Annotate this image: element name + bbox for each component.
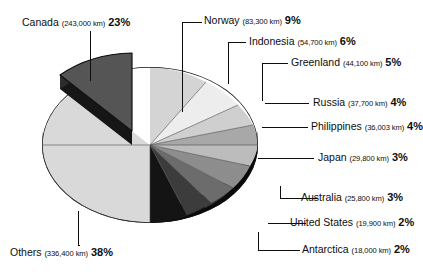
pie-chart [0,0,423,274]
label-philippines-name: Philippines [311,120,362,132]
label-norway-value: (83,300 km) [243,17,282,26]
label-others: Others (336,400 km) 38% [10,247,113,258]
leader-others-v [78,211,79,245]
leader-indonesia-v [228,42,229,84]
leader-japan-h [258,158,314,159]
label-australia-value: (25,800 km) [345,194,384,203]
label-indonesia-value: (54,700 km) [297,38,336,47]
label-indonesia-percent: 6% [340,35,356,47]
label-japan-percent: 3% [392,151,408,163]
label-united-states-percent: 2% [398,216,414,228]
label-japan-name: Japan [318,151,347,163]
label-canada-name: Canada [22,16,59,28]
chart-canvas: World's longest coastlines [0,0,423,274]
leader-indonesia-h [228,42,246,43]
label-philippines: Philippines (36,003 km) 4% [311,121,423,132]
leader-australia-v [280,186,281,198]
label-greenland-name: Greenland [291,56,340,68]
label-antarctica-value: (18,000 km) [352,246,391,255]
label-norway-name: Norway [204,14,240,26]
label-australia-percent: 3% [387,191,403,203]
label-others-percent: 38% [91,246,113,258]
label-antarctica-percent: 2% [394,243,410,255]
label-japan-value: (29,800 km) [350,154,389,163]
label-norway: Norway (83,300 km) 9% [204,15,301,26]
pie-svg [0,0,423,274]
label-indonesia: Indonesia (54,700 km) 6% [249,36,356,47]
label-united-states-name: United States [290,216,353,228]
label-others-name: Others [10,246,42,258]
label-australia-name: Australia [301,191,342,203]
label-russia-value: (37,700 km) [348,99,387,108]
label-russia: Russia (37,700 km) 4% [313,97,406,108]
label-united-states-value: (19,900 km) [356,219,395,228]
slice-others [42,145,150,223]
label-canada-percent: 23% [108,16,130,28]
label-united-states: United States (19,900 km) 2% [290,217,414,228]
leader-others-h [78,245,80,246]
label-norway-percent: 9% [285,14,301,26]
label-japan: Japan (29,800 km) 3% [318,152,408,163]
label-philippines-value: (36,003 km) [365,123,404,132]
label-russia-name: Russia [313,96,345,108]
label-others-value: (336,400 km) [44,249,88,258]
leader-antarctica-v [258,232,259,250]
leader-greenland-v [262,63,263,101]
label-australia: Australia (25,800 km) 3% [301,192,403,203]
leader-antarctica-h [258,250,300,251]
leader-greenland-h [262,63,288,64]
label-philippines-percent: 4% [407,120,423,132]
leader-russia-h [265,103,309,104]
label-greenland-percent: 5% [385,56,401,68]
label-greenland: Greenland (44,100 km) 5% [291,57,401,68]
leader-philippines-h [262,127,308,128]
label-canada-value: (243,000 km) [62,19,106,28]
label-canada: Canada (243,000 km) 23% [22,17,130,28]
label-greenland-value: (44,100 km) [343,59,382,68]
label-antarctica-name: Antarctica [302,243,349,255]
leader-canada [90,31,91,81]
label-antarctica: Antarctica (18,000 km) 2% [302,244,410,255]
leader-norway-h [182,22,202,23]
leader-norway-v [182,22,183,112]
label-indonesia-name: Indonesia [249,35,295,47]
label-russia-percent: 4% [390,96,406,108]
